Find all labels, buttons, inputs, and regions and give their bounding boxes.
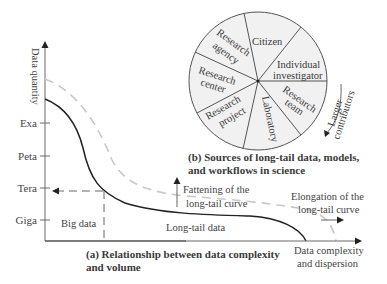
diagram-canvas: Data quantity Exa Peta Tera Giga Big dat… (0, 0, 387, 284)
big-data-label: Big data (61, 218, 97, 229)
panel-b-caption-line1: (b) Sources of long-tail data, models, (188, 151, 359, 164)
elongation-label-line2: long-tail curve (298, 204, 360, 215)
x-axis-label-line1: Data complexity (294, 245, 364, 256)
panel-b-caption-line2: and workflows in science (188, 164, 305, 176)
tick-label-exa: Exa (20, 117, 37, 129)
tera-guide-arrowhead (52, 188, 59, 195)
fattening-arrow-head (174, 177, 181, 184)
pie-center-dot (257, 80, 260, 83)
x-axis-label-line2: and dispersion (297, 258, 359, 269)
tick-label-giga: Giga (16, 214, 38, 226)
x-axis-arrowhead (355, 238, 362, 245)
fattening-label-line1: Fattening of the (183, 184, 250, 195)
tick-label-tera: Tera (18, 182, 37, 194)
tick-label-peta: Peta (18, 150, 37, 162)
y-axis-arrowhead (42, 41, 49, 48)
elongation-label-line1: Elongation of the (291, 191, 364, 202)
panel-a-caption-line2: and volume (86, 261, 141, 273)
panel-b: Citizen Individual investigator Research… (188, 12, 359, 176)
segment-label-individual-investigator-1: Individual (277, 59, 320, 70)
long-tail-data-label: Long-tail data (166, 222, 226, 233)
panel-a-caption-line1: (a) Relationship between data complexity (86, 248, 280, 261)
y-axis-label: Data quantity (30, 48, 41, 106)
fattening-label-line2: long-tail curve (186, 198, 248, 209)
segment-label-citizen: Citizen (252, 36, 283, 47)
segment-label-individual-investigator-2: investigator (273, 70, 323, 81)
elongation-arrow-head (337, 217, 344, 224)
